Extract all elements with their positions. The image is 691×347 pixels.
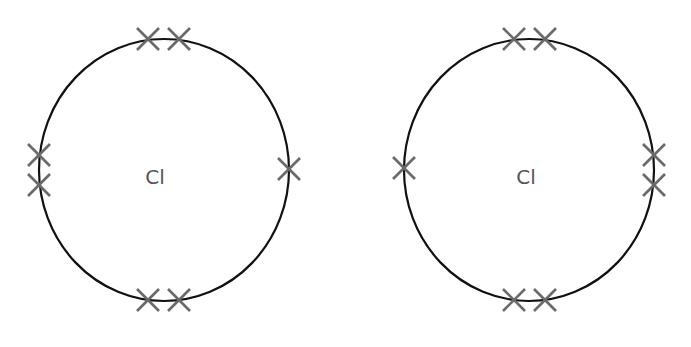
element-symbol-right: Cl xyxy=(516,165,536,189)
atom-right: Cl xyxy=(393,28,665,311)
chlorine-atoms-diagram: Cl Cl xyxy=(0,0,691,347)
atom-left: Cl xyxy=(28,28,300,311)
element-symbol-left: Cl xyxy=(145,165,165,189)
